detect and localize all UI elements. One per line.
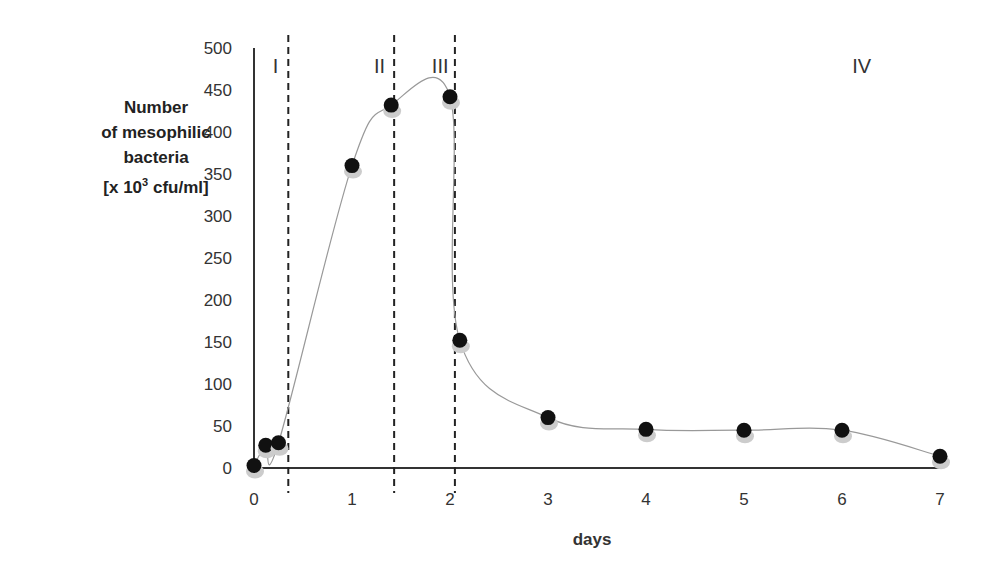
y-tick-label: 100 bbox=[204, 375, 232, 394]
x-tick-label: 6 bbox=[837, 490, 846, 509]
data-point bbox=[247, 458, 262, 473]
x-tick-label: 7 bbox=[935, 490, 944, 509]
phase-label: I bbox=[273, 55, 279, 77]
phase-label: IV bbox=[852, 55, 872, 77]
x-tick-label: 0 bbox=[249, 490, 258, 509]
y-tick-label: 450 bbox=[204, 81, 232, 100]
phase-label: II bbox=[374, 55, 385, 77]
x-tick-label: 3 bbox=[543, 490, 552, 509]
y-tick-label: 250 bbox=[204, 249, 232, 268]
y-tick-label: 350 bbox=[204, 165, 232, 184]
x-tick-label: 4 bbox=[641, 490, 650, 509]
data-point bbox=[271, 435, 286, 450]
data-point bbox=[384, 98, 399, 113]
x-tick-label: 5 bbox=[739, 490, 748, 509]
y-tick-label: 400 bbox=[204, 123, 232, 142]
data-point bbox=[639, 422, 654, 437]
data-point bbox=[737, 423, 752, 438]
data-point bbox=[835, 423, 850, 438]
x-tick-label: 2 bbox=[445, 490, 454, 509]
y-tick-label: 150 bbox=[204, 333, 232, 352]
x-axis-label: days bbox=[573, 530, 612, 549]
y-tick-label: 0 bbox=[223, 459, 232, 478]
data-point bbox=[345, 158, 360, 173]
y-tick-label: 500 bbox=[204, 39, 232, 58]
y-tick-label: 50 bbox=[213, 417, 232, 436]
y-tick-label: 200 bbox=[204, 291, 232, 310]
y-tick-label: 300 bbox=[204, 207, 232, 226]
phase-label: III bbox=[432, 55, 449, 77]
chart-plot: 05010015020025030035040045050001234567da… bbox=[0, 0, 986, 566]
data-point bbox=[933, 449, 948, 464]
x-tick-label: 1 bbox=[347, 490, 356, 509]
data-point bbox=[443, 89, 458, 104]
data-point bbox=[452, 333, 467, 348]
data-point bbox=[541, 410, 556, 425]
trend-curve bbox=[254, 77, 940, 465]
